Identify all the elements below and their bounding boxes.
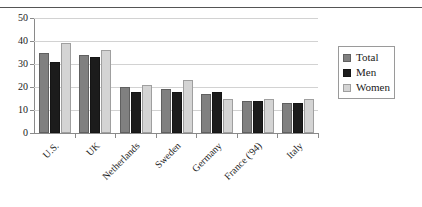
bar-total-0 — [39, 53, 49, 134]
x-tick-mark — [277, 134, 278, 138]
legend-label-men: Men — [356, 67, 376, 78]
bar-women-6 — [304, 99, 314, 134]
x-tick-mark — [318, 134, 319, 138]
x-tick-label: France ('94) — [222, 140, 264, 182]
legend-item-men: Men — [343, 65, 390, 80]
legend-swatch-women — [343, 84, 351, 92]
legend-item-total: Total — [343, 50, 390, 65]
y-tick-mark — [30, 64, 34, 65]
bar-total-5 — [242, 101, 252, 133]
x-tick-label: Italy — [284, 140, 305, 161]
y-tick-mark — [30, 133, 34, 134]
y-tick-label: 40 — [2, 36, 28, 46]
y-tick-label: 50 — [2, 13, 28, 23]
bar-group — [79, 18, 112, 133]
bar-women-2 — [142, 85, 152, 133]
x-tick-mark — [237, 134, 238, 138]
bar-total-1 — [79, 55, 89, 133]
x-tick-mark — [196, 134, 197, 138]
x-tick-label: U.S. — [41, 140, 61, 160]
bar-women-1 — [101, 50, 111, 133]
y-tick-mark — [30, 87, 34, 88]
bar-group — [282, 18, 315, 133]
bar-group — [161, 18, 194, 133]
legend-swatch-men — [343, 69, 351, 77]
bar-women-4 — [223, 99, 233, 134]
x-tick-mark — [156, 134, 157, 138]
bar-men-2 — [131, 92, 141, 133]
x-tick-label: Netherlands — [100, 140, 142, 182]
bar-women-0 — [61, 43, 71, 133]
y-tick-mark — [30, 110, 34, 111]
legend-label-total: Total — [356, 52, 378, 63]
x-tick-mark — [115, 134, 116, 138]
bar-men-5 — [253, 101, 263, 133]
bar-men-1 — [90, 57, 100, 133]
bar-group — [39, 18, 72, 133]
bar-total-6 — [282, 103, 292, 133]
bar-group — [201, 18, 234, 133]
legend-item-women: Women — [343, 80, 390, 95]
bar-men-6 — [293, 103, 303, 133]
bar-chart-figure: 01020304050 U.S.UKNetherlandsSwedenGerma… — [0, 0, 422, 207]
bar-men-4 — [212, 92, 222, 133]
x-tick-mark — [75, 134, 76, 138]
bar-women-5 — [264, 99, 274, 134]
bar-men-3 — [172, 92, 182, 133]
bar-total-3 — [161, 89, 171, 133]
bar-total-2 — [120, 87, 130, 133]
chart-legend: Total Men Women — [338, 46, 395, 99]
plot-area — [34, 18, 318, 133]
bar-total-4 — [201, 94, 211, 133]
top-horizontal-rule — [0, 7, 422, 8]
x-tick-label: Germany — [189, 140, 223, 174]
bar-group — [120, 18, 153, 133]
bar-group — [242, 18, 275, 133]
x-axis-line — [34, 133, 319, 134]
y-tick-mark — [30, 18, 34, 19]
legend-label-women: Women — [356, 82, 390, 93]
x-tick-label: UK — [84, 140, 102, 158]
y-tick-label: 0 — [2, 128, 28, 138]
legend-swatch-total — [343, 54, 351, 62]
bar-women-3 — [183, 80, 193, 133]
y-tick-label: 20 — [2, 82, 28, 92]
y-tick-mark — [30, 41, 34, 42]
x-tick-label: Sweden — [153, 140, 183, 170]
bar-men-0 — [50, 62, 60, 133]
y-tick-label: 30 — [2, 59, 28, 69]
y-tick-label: 10 — [2, 105, 28, 115]
